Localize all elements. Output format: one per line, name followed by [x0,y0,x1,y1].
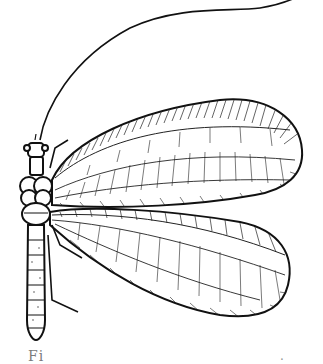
body [20,143,52,340]
figure-caption-right-fragment: . [280,349,284,363]
figure-caption-fragment: Fi [28,348,44,364]
thorax [20,177,52,225]
forewing [52,99,302,209]
abdomen [27,225,45,340]
hindwing [50,209,292,318]
